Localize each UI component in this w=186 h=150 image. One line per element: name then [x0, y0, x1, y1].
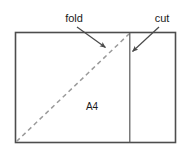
fold-and-cut-diagram: fold cut A4 — [0, 0, 186, 150]
sheet-rectangle — [16, 33, 176, 143]
diagram-canvas: fold cut A4 — [0, 0, 186, 150]
sheet-size-label: A4 — [86, 101, 99, 112]
fold-label: fold — [65, 12, 83, 24]
cut-label: cut — [155, 12, 170, 24]
